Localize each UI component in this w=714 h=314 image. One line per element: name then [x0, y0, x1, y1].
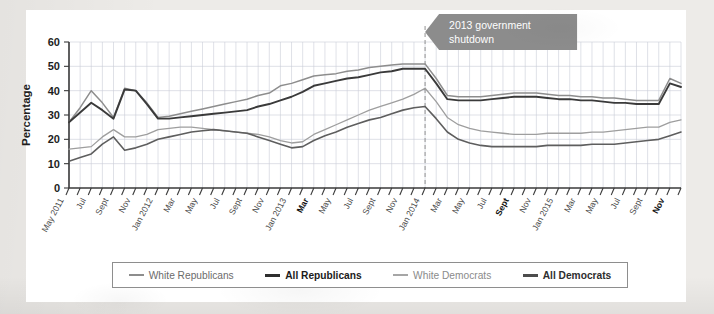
x-tick-label: May	[183, 196, 200, 216]
legend-line-swatch	[523, 274, 538, 277]
y-tick-label: 0	[54, 182, 60, 194]
x-tick-label: Sept	[93, 196, 110, 217]
x-tick-label: Mar	[161, 196, 177, 214]
x-tick-label: Jul	[208, 196, 222, 210]
x-tick-label: Sept	[493, 196, 511, 217]
shutdown-annotation-callout: 2013 governmentshutdown	[425, 14, 577, 50]
chart-legend: White RepublicansAll RepublicansWhite De…	[112, 262, 628, 288]
legend-line-swatch	[129, 274, 144, 276]
series-line	[69, 106, 681, 161]
legend-item[interactable]: White Republicans	[129, 270, 234, 281]
y-tick-label: 50	[48, 60, 60, 72]
y-tick-label: 40	[48, 85, 60, 97]
x-tick-label: Nov	[384, 196, 400, 215]
y-tick-label: 30	[48, 109, 60, 121]
data-series-lines	[69, 64, 681, 161]
x-tick-label: Jul	[341, 196, 355, 210]
x-tick-label: Nov	[650, 196, 667, 215]
x-tick-label: Nov	[117, 196, 133, 215]
legend-label: White Democrats	[413, 270, 491, 281]
x-tick-label: May	[316, 196, 333, 216]
x-tick-label: Nov	[250, 196, 266, 215]
series-line	[69, 64, 681, 122]
callout-text-line: shutdown	[449, 33, 494, 45]
y-axis-title: Percentage	[20, 84, 32, 146]
legend-line-swatch	[265, 274, 280, 277]
y-tick-label: 10	[48, 158, 60, 170]
x-tick-label: May 2011	[40, 196, 66, 234]
x-tick-label: Sept	[627, 196, 644, 217]
x-tick-label: Mar	[295, 196, 311, 215]
x-tick-label: Mar	[428, 196, 444, 214]
callout-text-line: 2013 government	[449, 19, 531, 31]
x-tick-label: Sept	[227, 196, 244, 217]
x-tick-label: Jan 2015	[530, 196, 556, 232]
y-tick-label: 20	[48, 133, 60, 145]
series-line	[69, 69, 681, 123]
x-tick-label: Jan 2012	[129, 196, 155, 232]
legend-label: All Democrats	[543, 270, 612, 281]
horizontal-gridlines	[69, 42, 681, 164]
x-tick-label: Mar	[562, 196, 578, 214]
x-axis-tick-labels: May 2011JulSeptNovJan 2012MarMayJulSeptN…	[40, 196, 667, 234]
x-tick-label: May	[583, 196, 600, 216]
x-tick-label: Jan 2013	[263, 196, 289, 232]
x-tick-label: Jul	[475, 196, 489, 210]
x-tick-label: Jul	[74, 196, 88, 210]
x-tick-label: Jul	[608, 196, 622, 210]
y-axis-tick-labels: 0102030405060	[48, 36, 60, 194]
legend-label: All Republicans	[285, 270, 361, 281]
legend-label: White Republicans	[149, 270, 234, 281]
x-tick-label: Sept	[360, 196, 377, 217]
y-tick-label: 60	[48, 36, 60, 48]
x-tick-label: Jan 2014	[396, 196, 422, 232]
legend-item[interactable]: All Republicans	[265, 270, 361, 281]
legend-item[interactable]: White Democrats	[393, 270, 491, 281]
legend-item[interactable]: All Democrats	[523, 270, 612, 281]
legend-line-swatch	[393, 274, 408, 276]
x-tick-label: May	[450, 196, 467, 216]
x-tick-label: Nov	[517, 196, 533, 215]
x-axis-ticks	[66, 188, 681, 195]
